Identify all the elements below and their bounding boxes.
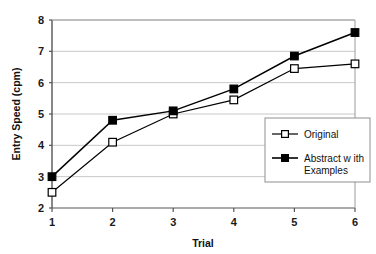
x-tick-label-2: 2: [110, 216, 116, 228]
data-point-marker: [109, 138, 117, 146]
x-tick-label-5: 5: [291, 216, 297, 228]
line-chart: 2345678 123456 Trial Entry Speed (cpm) O…: [0, 0, 376, 254]
y-tick-label-8: 8: [38, 14, 44, 26]
y-tick-label-2: 2: [38, 202, 44, 214]
y-tick-label-5: 5: [38, 108, 44, 120]
y-tick-label-6: 6: [38, 77, 44, 89]
y-tick-label-7: 7: [38, 45, 44, 57]
y-tick-label-4: 4: [38, 139, 45, 151]
data-point-marker: [291, 52, 299, 60]
data-point-marker: [230, 96, 238, 104]
y-axis-title: Entry Speed (cpm): [10, 68, 22, 161]
chart-container: 2345678 123456 Trial Entry Speed (cpm) O…: [0, 0, 376, 254]
data-point-marker: [291, 65, 299, 73]
legend-label-1: Original: [304, 129, 338, 140]
data-point-marker: [48, 189, 56, 197]
legend-marker-2: [282, 155, 289, 162]
data-point-marker: [351, 29, 359, 37]
x-axis-title: Trial: [192, 237, 214, 249]
x-tick-label-3: 3: [170, 216, 176, 228]
y-tick-label-3: 3: [38, 171, 44, 183]
x-tick-label-1: 1: [49, 216, 55, 228]
data-point-marker: [351, 60, 359, 68]
legend-label-2-line2: Examples: [304, 165, 348, 176]
x-tick-label-6: 6: [352, 216, 358, 228]
data-point-marker: [109, 116, 117, 124]
legend-marker-1: [282, 131, 289, 138]
data-point-marker: [48, 173, 56, 181]
data-point-marker: [169, 107, 177, 115]
x-tick-label-4: 4: [231, 216, 238, 228]
chart-legend: OriginalAbstract w ithExamples: [265, 118, 370, 182]
legend-label-2: Abstract w ith: [304, 153, 364, 164]
data-point-marker: [230, 85, 238, 93]
